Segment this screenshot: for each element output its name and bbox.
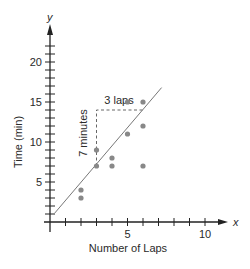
y-tick-label-15: 15 (30, 96, 42, 108)
run-label: 3 laps (104, 94, 134, 106)
y-tick-label-20: 20 (30, 56, 42, 68)
y-tick-label-10: 10 (30, 136, 42, 148)
data-point (94, 147, 99, 152)
trend-line (55, 88, 162, 214)
data-point (78, 195, 83, 200)
data-point (140, 99, 145, 104)
data-point (140, 123, 145, 128)
y-axis-symbol: y (46, 11, 54, 23)
data-point (78, 187, 83, 192)
data-point (109, 163, 114, 168)
data-point (125, 99, 130, 104)
x-axis-arrow-icon (218, 219, 228, 225)
x-axis-title: Number of Laps (89, 242, 168, 254)
x-tick-label-5: 5 (124, 228, 130, 240)
x-tick-label-10: 10 (199, 228, 211, 240)
data-point (109, 155, 114, 160)
x-axis-symbol: x (232, 216, 239, 228)
data-point (94, 163, 99, 168)
y-axis-title: Time (min) (12, 116, 24, 168)
y-tick-label-5: 5 (36, 176, 42, 188)
axis-ticks (45, 46, 205, 226)
y-axis-arrow-icon (47, 24, 53, 35)
rise-label: 7 minutes (77, 109, 89, 157)
scatter-chart: x y 5 10 5 10 15 20 Number of Laps Time … (0, 0, 250, 269)
data-point (140, 163, 145, 168)
data-point (125, 131, 130, 136)
